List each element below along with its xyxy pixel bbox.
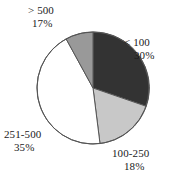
pie-label-gt500-percent: 17% (28, 17, 54, 30)
pie-label-100-250: 100-250 18% (112, 147, 149, 173)
pie-label-lt100: < 100 30% (124, 36, 154, 62)
pie-label-gt500-category: > 500 (28, 4, 54, 17)
pie-label-lt100-category: < 100 (124, 36, 154, 49)
pie-label-lt100-percent: 30% (124, 49, 154, 62)
pie-chart-figure: > 500 17% < 100 30% 100-250 18% 251-500 … (0, 0, 175, 182)
pie-label-100-250-category: 100-250 (112, 147, 149, 160)
pie-label-251-500: 251-500 35% (4, 128, 41, 154)
pie-label-251-500-percent: 35% (4, 141, 41, 154)
pie-label-251-500-category: 251-500 (4, 128, 41, 141)
pie-label-100-250-percent: 18% (112, 160, 149, 173)
pie-label-gt500: > 500 17% (28, 4, 54, 30)
